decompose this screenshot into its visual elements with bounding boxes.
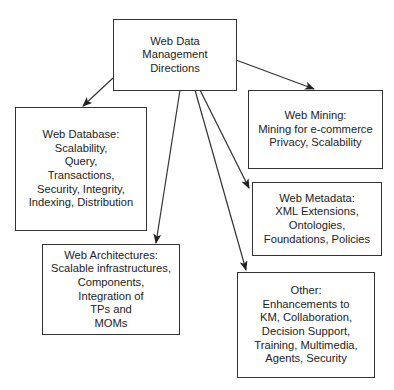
edge-root-web-database bbox=[83, 78, 113, 106]
web-architectures-node: Web Architectures: Scalable infrastructu… bbox=[42, 244, 180, 335]
root-node: Web Data Management Directions bbox=[113, 19, 237, 91]
node-text-line: Mining for e-commerce bbox=[258, 123, 372, 137]
edge-root-web-metadata bbox=[200, 90, 249, 188]
web-mining-node: Web Mining: Mining for e-commerce Privac… bbox=[248, 90, 383, 169]
node-text-line: Web Mining: bbox=[285, 109, 347, 123]
node-text-line: Security, Integrity, bbox=[37, 183, 125, 197]
node-text-line: Scalability, bbox=[55, 142, 108, 156]
other-node: Other: Enhancements to KM, Collaboration… bbox=[237, 272, 375, 378]
node-text-line: Indexing, Distribution bbox=[29, 196, 133, 210]
node-text-line: Other: bbox=[290, 284, 321, 298]
edge-root-web-mining bbox=[236, 60, 314, 89]
edge-root-web-architectures bbox=[156, 90, 180, 243]
node-text-line: Query, bbox=[65, 155, 98, 169]
node-text-line: Decision Support, bbox=[262, 325, 350, 339]
node-text-line: XML Extensions, bbox=[275, 205, 359, 219]
node-text-line: Scalable infrastructures, bbox=[51, 262, 171, 276]
node-text-line: Web Architectures: bbox=[64, 249, 158, 263]
node-text-line: Enhancements to bbox=[262, 298, 349, 312]
node-text-line: Foundations, Policies bbox=[264, 233, 370, 247]
node-text-line: TPs and bbox=[90, 303, 132, 317]
node-text-line: Web Data bbox=[150, 35, 200, 49]
node-text-line: Integration of bbox=[78, 290, 143, 304]
edge-root-other bbox=[195, 90, 246, 270]
node-text-line: Web Metadata: bbox=[279, 192, 355, 206]
node-text-line: KM, Collaboration, bbox=[260, 311, 352, 325]
node-text-line: Training, Multimedia, bbox=[254, 339, 357, 353]
node-text-line: Privacy, Scalability bbox=[269, 136, 361, 150]
node-text-line: Agents, Security bbox=[265, 352, 346, 366]
node-text-line: Transactions, bbox=[48, 169, 115, 183]
node-text-line: Ontologies, bbox=[289, 219, 346, 233]
node-text-line: Management bbox=[142, 48, 207, 62]
web-metadata-node: Web Metadata: XML Extensions, Ontologies… bbox=[252, 182, 382, 256]
web-database-node: Web Database: Scalability, Query, Transa… bbox=[15, 107, 147, 231]
node-text-line: MOMs bbox=[95, 317, 128, 331]
node-text-line: Web Database: bbox=[43, 128, 120, 142]
node-text-line: Components, bbox=[78, 276, 145, 290]
node-text-line: Directions bbox=[150, 62, 200, 76]
